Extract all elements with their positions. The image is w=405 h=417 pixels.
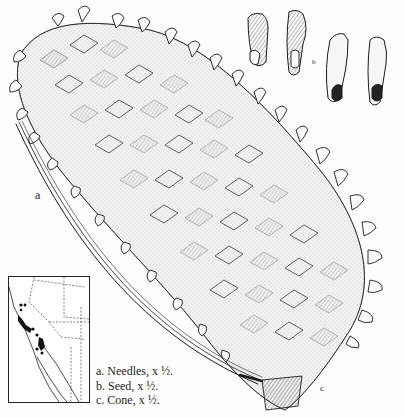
legend-item-cone: c. Cone, x ½. — [96, 393, 173, 408]
cone-label: c — [320, 383, 324, 393]
needle-label: a — [35, 188, 40, 203]
botanical-plate: · · · · · — [0, 0, 405, 417]
seed-label: b — [312, 58, 316, 66]
range-dots — [18, 303, 45, 354]
range-map — [8, 276, 90, 403]
range-map-drawing — [9, 277, 89, 402]
figure-legend: a. Needles, x ½. b. Seed, x ½. c. Cone, … — [96, 364, 173, 408]
seeds — [248, 10, 387, 105]
legend-item-needles: a. Needles, x ½. — [96, 364, 173, 379]
cone-stalk — [262, 376, 302, 410]
legend-item-seed: b. Seed, x ½. — [96, 379, 173, 394]
